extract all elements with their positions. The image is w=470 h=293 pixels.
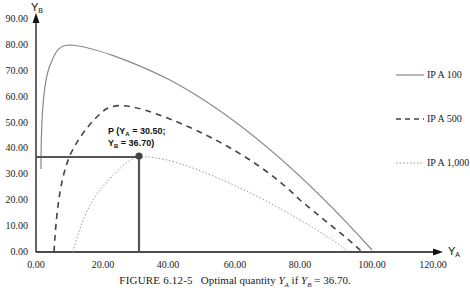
figure-number: FIGURE 6.12-5	[119, 274, 193, 286]
y-tick: 50.00	[6, 117, 29, 128]
x-tick: 120.00	[419, 259, 447, 270]
legend-label: IP A 1,000	[427, 157, 469, 168]
y-tick: 70.00	[6, 65, 29, 76]
series-ip-a-500	[54, 106, 362, 252]
point-annotation-line1: P (YA = 30.50;	[108, 126, 165, 137]
legend-label: IP A 500	[427, 113, 462, 124]
y-tick: 10.00	[6, 220, 29, 231]
x-axis-label: YA	[448, 245, 460, 258]
chart-svg: 0.00 10.00 20.00 30.00 40.00 50.00 60.00…	[0, 0, 470, 293]
x-tick: 80.00	[289, 259, 312, 270]
x-tick: 60.00	[224, 259, 247, 270]
x-tick-labels: 0.00 20.00 40.00 60.00 80.00 100.00 120.…	[27, 259, 447, 270]
y-tick: 60.00	[6, 91, 29, 102]
x-tick: 20.00	[92, 259, 115, 270]
point-annotation-line2: YB = 36.70)	[108, 138, 154, 149]
x-tick: 100.00	[358, 259, 386, 270]
legend: IP A 100 IP A 500 IP A 1,000	[396, 69, 469, 168]
figure-caption: FIGURE 6.12-5Optimal quantity YA if YB =…	[0, 274, 470, 289]
x-tick: 40.00	[157, 259, 180, 270]
y-tick: 90.00	[6, 13, 29, 24]
y-tick: 0.00	[11, 246, 29, 257]
legend-label: IP A 100	[427, 69, 462, 80]
x-tick: 0.00	[27, 259, 45, 270]
y-tick: 20.00	[6, 194, 29, 205]
y-tick: 80.00	[6, 39, 29, 50]
x-axis-arrow-icon	[433, 249, 443, 256]
y-tick-labels: 0.00 10.00 20.00 30.00 40.00 50.00 60.00…	[6, 13, 29, 257]
y-axis-label: YB	[31, 1, 43, 14]
y-axis-arrow-icon	[33, 13, 40, 23]
optimal-point	[135, 152, 142, 159]
series-ip-a-1000	[73, 157, 348, 252]
y-tick: 30.00	[6, 168, 29, 179]
y-tick: 40.00	[6, 142, 29, 153]
